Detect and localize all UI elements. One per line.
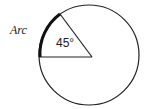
arc-label: Arc (9, 23, 28, 37)
circle-arc-diagram: Arc 45° (0, 0, 144, 109)
angle-label: 45° (56, 36, 74, 50)
